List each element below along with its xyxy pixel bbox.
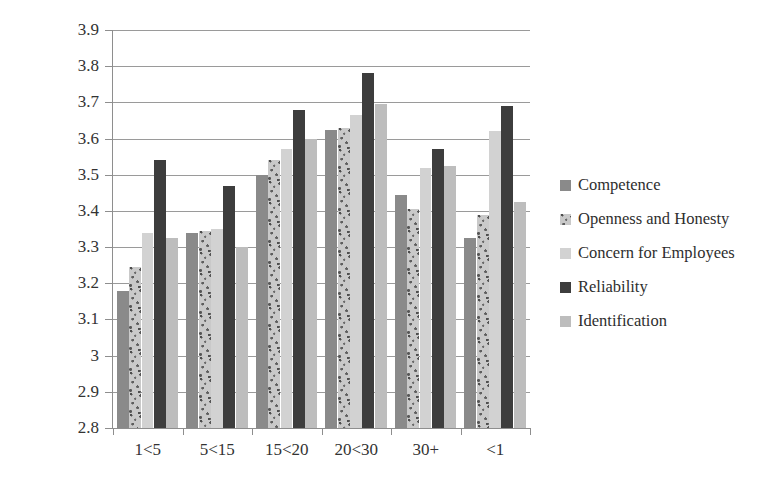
bar (117, 291, 129, 428)
bar (514, 202, 526, 428)
legend-item-label: Openness and Honesty (578, 211, 729, 228)
legend-item: Identification (560, 304, 735, 338)
y-axis-tick-label: 3.4 (0, 202, 99, 219)
bar (305, 139, 317, 428)
x-axis-tick-mark (113, 428, 114, 435)
x-axis-tick-label: 15<20 (252, 441, 322, 459)
bar (420, 168, 432, 429)
y-axis-tick-label: 2.8 (0, 419, 99, 436)
y-axis-tick-mark (105, 30, 113, 31)
legend-item-label: Competence (578, 177, 660, 194)
legend-item: Openness and Honesty (560, 202, 735, 236)
legend-swatch-icon (560, 248, 571, 259)
legend-item: Reliability (560, 270, 735, 304)
x-axis-tick-label: 5<15 (183, 441, 253, 459)
y-axis-tick-label: 2.9 (0, 383, 99, 400)
bar (432, 149, 444, 428)
bar (477, 215, 489, 428)
y-axis-tick-label: 3 (0, 347, 99, 364)
y-axis-tick-label: 3.7 (0, 93, 99, 110)
bar (464, 238, 476, 428)
bar (129, 267, 141, 428)
y-axis-tick-label: 3.2 (0, 274, 99, 291)
bar (268, 160, 280, 428)
x-axis-tick-label: 30+ (391, 441, 461, 459)
bar (223, 186, 235, 428)
y-axis-tick-label: 3.3 (0, 238, 99, 255)
y-axis-tick-mark (105, 356, 113, 357)
y-axis-tick-label: 3.9 (0, 21, 99, 38)
legend-swatch-icon (560, 180, 571, 191)
legend-item: Concern for Employees (560, 236, 735, 270)
bar (375, 104, 387, 428)
y-axis-tick-mark (105, 283, 113, 284)
y-axis-tick-label: 3.1 (0, 310, 99, 327)
bar (395, 195, 407, 428)
y-axis-tick-mark (105, 392, 113, 393)
bar (256, 175, 268, 428)
y-axis-tick-mark (105, 211, 113, 212)
bar (186, 233, 198, 428)
bar (236, 247, 248, 428)
bar (281, 149, 293, 428)
y-axis-tick-mark (105, 247, 113, 248)
bar (350, 115, 362, 428)
bar (407, 209, 419, 428)
bar (325, 130, 337, 429)
x-axis-tick-mark (183, 428, 184, 435)
legend-swatch-icon (560, 214, 571, 225)
y-axis-tick-label: 3.5 (0, 166, 99, 183)
y-axis-tick-mark (105, 102, 113, 103)
plot-area (113, 30, 530, 428)
x-axis-tick-label: 1<5 (113, 441, 183, 459)
legend-item-label: Identification (578, 313, 667, 330)
legend-item-label: Concern for Employees (578, 245, 735, 262)
bar (362, 73, 374, 428)
bar-chart: 3.93.83.73.63.53.43.33.23.132.92.8 1<55<… (0, 0, 783, 497)
y-axis-tick-mark (105, 175, 113, 176)
x-axis-tick-mark (252, 428, 253, 435)
bar (444, 166, 456, 428)
bar (501, 106, 513, 428)
y-axis-tick-mark (105, 139, 113, 140)
x-axis-tick-label: 20<30 (322, 441, 392, 459)
legend-item: Competence (560, 168, 735, 202)
legend-swatch-icon (560, 316, 571, 327)
bar (142, 233, 154, 428)
bar (211, 229, 223, 428)
chart-legend: CompetenceOpenness and HonestyConcern fo… (560, 168, 735, 338)
y-axis-tick-label: 3.8 (0, 57, 99, 74)
y-axis-tick-mark (105, 428, 113, 429)
bar (489, 131, 501, 428)
x-axis-tick-mark (461, 428, 462, 435)
bar (338, 128, 350, 428)
legend-item-label: Reliability (578, 279, 648, 296)
bar (154, 160, 166, 428)
x-axis-tick-mark (391, 428, 392, 435)
x-axis-tick-label: <1 (461, 441, 531, 459)
y-axis-tick-label: 3.6 (0, 130, 99, 147)
y-axis-tick-mark (105, 319, 113, 320)
bar (166, 238, 178, 428)
bar (199, 231, 211, 428)
y-axis-tick-mark (105, 66, 113, 67)
legend-swatch-icon (560, 282, 571, 293)
bar (293, 110, 305, 428)
x-axis-tick-mark (322, 428, 323, 435)
x-axis-tick-mark (530, 428, 531, 435)
